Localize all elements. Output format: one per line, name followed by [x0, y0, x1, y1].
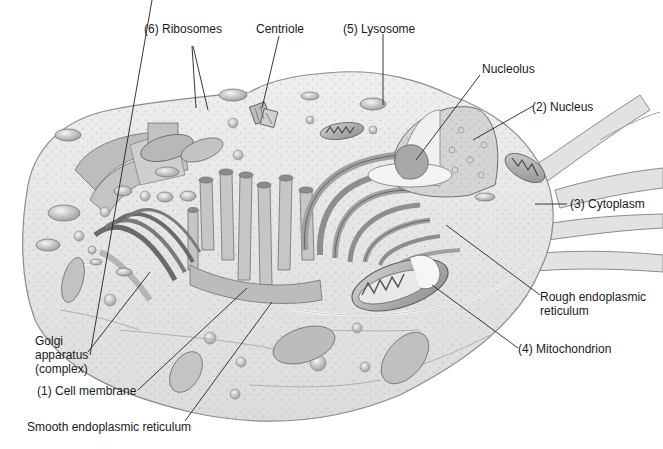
label-golgi-line1: Golgi	[35, 334, 63, 348]
label-nucleus: (2) Nucleus	[532, 100, 593, 114]
label-rough-er-line1: Rough endoplasmic	[540, 290, 646, 304]
label-centriole: Centriole	[256, 22, 304, 36]
cell-illustration	[0, 0, 663, 449]
label-nucleolus: Nucleolus	[482, 62, 535, 76]
label-lysosome: (5) Lysosome	[343, 22, 415, 36]
label-rough-er-line2: reticulum	[540, 304, 589, 318]
cell-diagram: (6) Ribosomes Centriole (5) Lysosome Nuc…	[0, 0, 663, 449]
label-mitochondrion: (4) Mitochondrion	[518, 342, 611, 356]
label-ribosomes: (6) Ribosomes	[144, 22, 222, 36]
label-golgi-line3: (complex)	[35, 362, 88, 376]
label-cytoplasm: (3) Cytoplasm	[570, 197, 645, 211]
label-cell-membrane: (1) Cell membrane	[37, 384, 136, 398]
label-smooth-er: Smooth endoplasmic reticulum	[27, 420, 191, 434]
label-golgi-line2: apparatus	[35, 348, 88, 362]
